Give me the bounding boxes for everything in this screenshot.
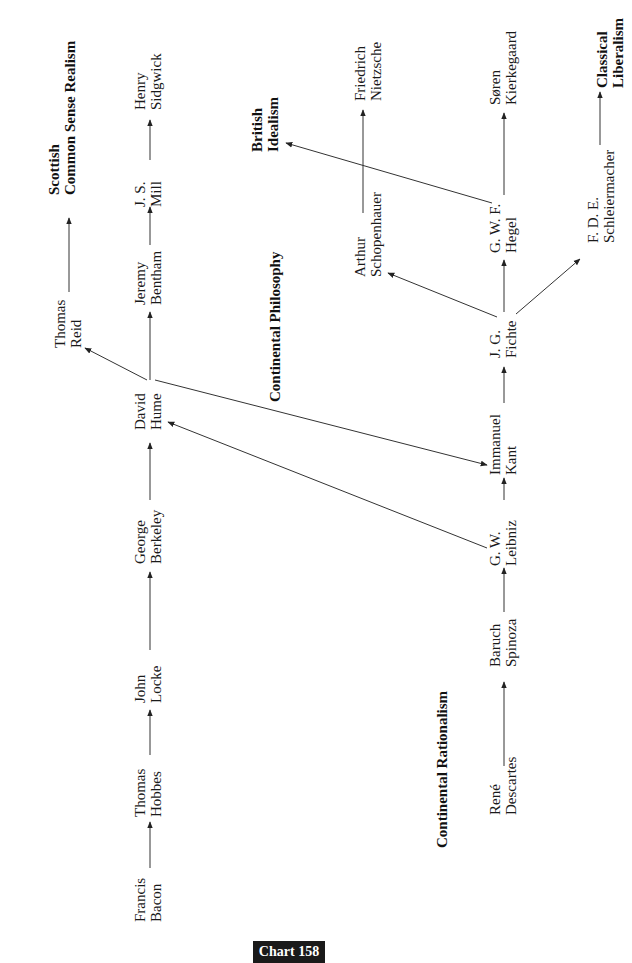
node-kierkegaard: Søren Kierkegaard [487,30,519,105]
node-bacon: Francis Bacon [132,874,164,922]
edge-hume-reid [85,348,147,380]
node-locke: John Locke [132,665,164,703]
node-reid: Thomas Reid [52,296,84,348]
edges [69,92,600,868]
school-british-idealism: British Idealism [249,96,281,152]
philosophy-lineage-diagram: Scottish Common Sense Realism British Id… [0,0,632,963]
philosopher-nodes: Francis Bacon Thomas Hobbes John Locke G… [52,30,617,922]
school-scottish: Scottish Common Sense Realism [46,40,78,195]
edge-fichte-schopenhauer [388,273,497,317]
node-descartes: René Descartes [487,757,519,815]
chart-number-badge: Chart 158 [253,941,325,963]
node-sidgwick: Henry Sidgwick [132,53,164,110]
node-hegel: G. W. F. Hegel [487,200,519,253]
node-mill: J. S. Mill [132,178,164,207]
school-labels: Scottish Common Sense Realism British Id… [46,17,626,848]
node-hume: David Hume [132,390,164,430]
chart-number-label: Chart 158 [253,941,325,963]
edge-leibniz-hume [168,422,487,548]
node-fichte: J. G. Fichte [487,320,519,358]
edge-hume-kant [155,380,487,465]
school-continental-philosophy: Continental Philosophy [267,251,283,402]
node-leibniz: G. W. Leibniz [487,520,519,566]
node-schopenhauer: Arthur Schopenhauer [352,192,384,277]
edge-hegel-british-idealism [286,143,492,203]
node-hobbes: Thomas Hobbes [132,765,164,817]
node-schleiermacher: F. D. E. Schleiermacher [585,150,617,243]
edge-fichte-schleiermacher [516,259,580,314]
node-spinoza: Baruch Spinoza [487,618,519,667]
school-continental-rationalism: Continental Rationalism [434,690,450,848]
node-berkeley: George Berkeley [132,509,164,564]
node-nietzsche: Friedrich Nietzsche [352,42,384,101]
school-classical-liberalism: Classical Liberalism [594,17,626,88]
node-kant: Immanuel Kant [487,410,519,475]
node-bentham: Jeremy Bentham [132,251,164,305]
